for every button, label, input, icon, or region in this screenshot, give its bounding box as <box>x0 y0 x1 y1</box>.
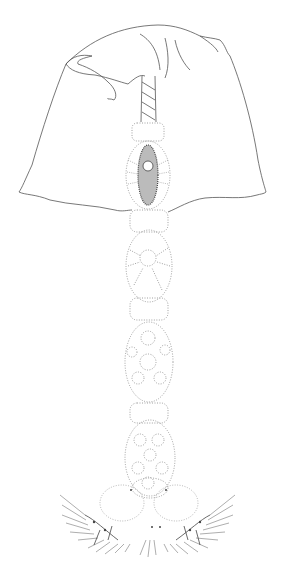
body-segments <box>125 210 175 498</box>
upper-segment <box>126 123 170 209</box>
organism-illustration <box>0 0 285 587</box>
twisted-stalk <box>141 76 156 122</box>
tentacle-clusters <box>60 485 235 557</box>
